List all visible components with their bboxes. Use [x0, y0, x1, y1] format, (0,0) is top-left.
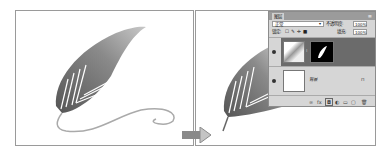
- blend-mode-select[interactable]: 正常: [272, 21, 324, 27]
- panel-menu-icon[interactable]: ≡: [368, 13, 372, 19]
- layer-row-feather[interactable]: ⁞: [269, 37, 375, 66]
- opacity-label: 不透明度:: [326, 21, 344, 27]
- chevron-down-icon[interactable]: ▾: [319, 21, 321, 27]
- lock-image-icon[interactable]: ✎: [291, 29, 295, 35]
- new-layer-icon[interactable]: ▢: [351, 99, 356, 105]
- panel-header: 图层 ≡: [269, 12, 375, 20]
- layer-mask-thumbnail[interactable]: [310, 41, 334, 63]
- lock-all-icon[interactable]: ■: [303, 29, 307, 35]
- lock-icon: ⊓: [361, 77, 365, 83]
- layers-panel: 图层 ≡ 正常 ▾ 不透明度: 100% 锁定: ☐ ✎ ✛ ■ 填充: 100…: [268, 11, 376, 107]
- opacity-input[interactable]: 100%: [353, 21, 367, 27]
- layer-row-background[interactable]: 背景 ⊓: [269, 66, 375, 95]
- tab-layers[interactable]: 图层: [272, 13, 284, 20]
- lock-row: 锁定: ☐ ✎ ✛ ■ 填充: 100%: [269, 28, 375, 36]
- link-icon[interactable]: ⁞: [306, 48, 307, 54]
- fill-label: 填充:: [337, 29, 347, 35]
- mask-shape-icon: [311, 42, 333, 62]
- fill-input[interactable]: 100%: [353, 29, 367, 35]
- feather-with-stem-image: [16, 11, 195, 147]
- link-icon[interactable]: ∞: [309, 99, 313, 105]
- lock-label: 锁定:: [272, 29, 282, 35]
- before-canvas: [15, 10, 194, 146]
- eye-icon[interactable]: [272, 50, 276, 54]
- lock-transparent-icon[interactable]: ☐: [285, 29, 289, 35]
- panel-footer: ∞ fx ◘ ◐ ▭ ▢ 🗑: [269, 95, 375, 106]
- layer-name: 背景: [309, 77, 317, 83]
- layer-thumbnail: [283, 41, 305, 63]
- delete-icon[interactable]: 🗑: [361, 99, 367, 105]
- add-mask-icon[interactable]: ◘: [325, 98, 333, 106]
- group-icon[interactable]: ▭: [343, 99, 348, 105]
- lock-position-icon[interactable]: ✛: [297, 29, 301, 35]
- right-arrow-icon: [182, 127, 212, 143]
- layer-thumbnail: [283, 70, 305, 92]
- eye-icon[interactable]: [272, 79, 276, 83]
- blend-row: 正常 ▾ 不透明度: 100%: [269, 20, 375, 28]
- adjustment-icon[interactable]: ◐: [335, 99, 339, 105]
- fx-icon[interactable]: fx: [317, 99, 322, 105]
